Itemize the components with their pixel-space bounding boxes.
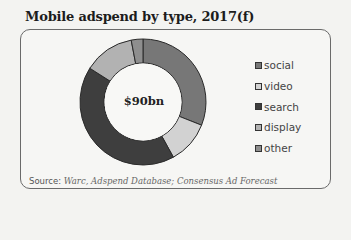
legend-swatch-social xyxy=(255,62,262,69)
legend-label: social xyxy=(264,59,294,71)
legend-label: other xyxy=(264,142,292,154)
legend-swatch-display xyxy=(255,124,262,131)
legend-item-social: social xyxy=(255,55,301,76)
legend-label: display xyxy=(264,121,301,133)
chart-legend: social video search display other xyxy=(255,55,301,158)
legend-swatch-other xyxy=(255,145,262,152)
legend-item-video: video xyxy=(255,76,301,97)
legend-label: search xyxy=(264,101,299,113)
legend-item-other: other xyxy=(255,138,301,159)
legend-item-display: display xyxy=(255,117,301,138)
legend-swatch-search xyxy=(255,103,262,110)
legend-swatch-video xyxy=(255,83,262,90)
legend-item-search: search xyxy=(255,96,301,117)
legend-label: video xyxy=(264,80,293,92)
source-label: Source: xyxy=(29,176,61,186)
source-note: Source: Warc, Adspend Database; Consensu… xyxy=(29,176,277,186)
source-text: Warc, Adspend Database; Consensus Ad For… xyxy=(64,176,278,186)
center-total-label: $90bn xyxy=(113,94,175,108)
